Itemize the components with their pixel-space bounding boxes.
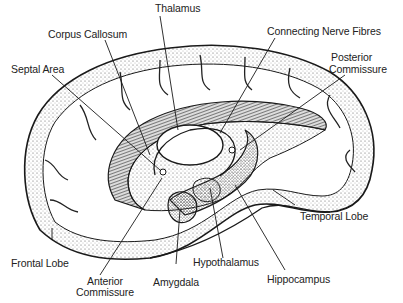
label-frontal-lobe: Frontal Lobe	[11, 258, 69, 269]
label-septal-area: Septal Area	[11, 64, 64, 75]
label-amygdala: Amygdala	[153, 277, 199, 288]
label-anterior-commissure-line2: Commissure	[72, 287, 138, 298]
hypothalamus-shape	[193, 178, 220, 201]
label-hypothalamus: Hypothalamus	[193, 257, 259, 268]
label-thalamus: Thalamus	[155, 3, 200, 14]
label-hippocampus: Hippocampus	[267, 274, 330, 285]
label-posterior-commissure-line2: Commissure	[329, 64, 387, 75]
label-posterior-commissure-line1: Posterior	[330, 52, 387, 63]
thalamus-shape	[157, 125, 223, 165]
label-corpus-callosum: Corpus Callosum	[48, 29, 127, 40]
label-anterior-commissure: Anterior Commissure	[72, 276, 138, 298]
label-connecting-nerve-fibres: Connecting Nerve Fibres	[267, 26, 381, 37]
amygdala-shape	[168, 192, 197, 223]
label-temporal-lobe: Temporal Lobe	[300, 211, 368, 222]
label-posterior-commissure: Posterior Commissure	[330, 52, 387, 75]
